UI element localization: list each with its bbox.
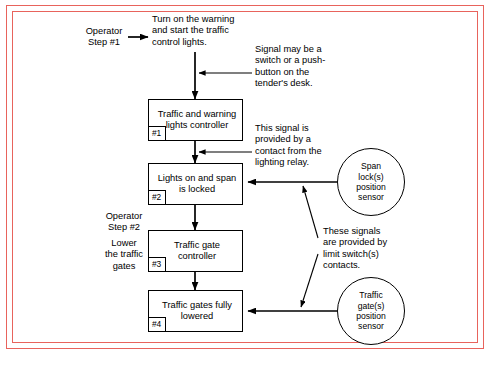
- process-box-4[interactable]: Traffic gates fully lowered #4: [148, 290, 243, 332]
- instruction-lower-gates: Lower the traffic gates: [93, 238, 155, 272]
- annotation-signal-source: Signal may be a switch or a push- button…: [255, 44, 363, 90]
- figure-canvas: Operator Step #1 Operator Step #2 Turn o…: [0, 0, 492, 369]
- process-box-2[interactable]: Lights on and span is locked #2: [148, 163, 243, 205]
- instruction-turn-on-lights: Turn on the warning and start the traffi…: [152, 14, 268, 48]
- process-box-3-number: #3: [148, 257, 166, 272]
- leader-limit-switch-upper: [303, 186, 318, 238]
- process-box-1-number: #1: [148, 126, 166, 141]
- process-box-2-number: #2: [148, 190, 166, 205]
- process-box-4-number: #4: [148, 317, 166, 332]
- annotation-limit-switch: These signals are provided by limit swit…: [323, 226, 431, 272]
- process-box-3[interactable]: Traffic gate controller #3: [148, 230, 243, 272]
- process-box-1[interactable]: Traffic and warning lights controller #1: [148, 99, 243, 141]
- annotation-lighting-relay: This signal is provided by a contact fro…: [255, 123, 365, 169]
- operator-step-1-label: Operator Step #1: [78, 26, 130, 49]
- sensor-traffic-gate-position[interactable]: Traffic gate(s) position sensor: [337, 277, 405, 345]
- connector-lines: [0, 0, 492, 369]
- sensor-traffic-gate-label: Traffic gate(s) position sensor: [356, 290, 386, 331]
- leader-limit-switch-lower: [301, 254, 318, 307]
- operator-step-2-label: Operator Step #2: [93, 211, 155, 234]
